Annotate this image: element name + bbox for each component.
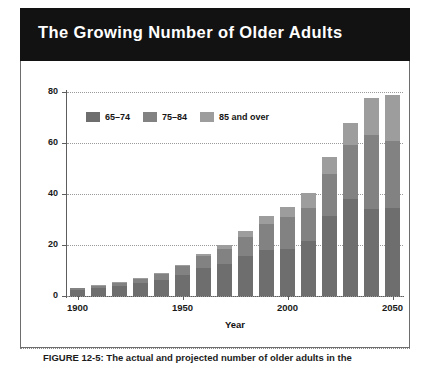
figure-title: The Growing Number of Older Adults [38,23,343,42]
y-tick-mark-40 [62,194,66,195]
bar-segment-2040-75-84 [364,135,378,209]
bar-2030 [343,123,357,296]
legend-swatch-1 [143,112,157,122]
chart-legend: 65–7475–8485 and over [86,112,269,122]
x-tick-mark-2000 [288,296,289,300]
x-tick-label-1900: 1900 [55,302,101,313]
bar-segment-2000-85-and-over [280,207,294,218]
bar-2040 [364,98,378,296]
bar-segment-1970-75-84 [217,249,231,265]
bar-segment-2030-75-84 [343,145,357,199]
bar-segment-2010-75-84 [301,208,315,241]
bar-2000 [280,207,294,296]
figure-caption: FIGURE 12-5: The actual and projected nu… [43,352,403,363]
bar-1940 [154,273,168,296]
bar-1970 [217,245,231,296]
bar-segment-2050-85-and-over [385,95,399,141]
y-tick-mark-20 [62,245,66,246]
bar-segment-1920-65-74 [112,286,126,296]
title-banner: The Growing Number of Older Adults [20,8,410,61]
bar-segment-1960-75-84 [196,256,210,268]
y-tick-label-60: 60 [24,137,58,147]
legend-label-2: 85 and over [219,112,269,122]
bar-segment-2050-75-84 [385,141,399,207]
caption-divider [20,348,410,349]
bar-segment-2040-85-and-over [364,98,378,134]
bar-segment-2000-75-84 [280,217,294,249]
y-tick-label-20: 20 [24,239,58,249]
bar-segment-1950-75-84 [175,266,189,274]
bar-segment-1990-85-and-over [259,216,273,224]
gridline-0 [67,296,403,297]
bar-2050 [385,95,399,296]
bar-segment-2020-65-74 [322,216,336,296]
bar-segment-1950-65-74 [175,275,189,296]
bar-1990 [259,216,273,296]
figure-container: The Growing Number of Older Adults 02040… [0,0,427,365]
legend-label-0: 65–74 [105,112,130,122]
bar-segment-2010-85-and-over [301,193,315,208]
bar-segment-2030-65-74 [343,199,357,296]
x-tick-mark-1900 [78,296,79,300]
legend-label-1: 75–84 [162,112,187,122]
legend-item-1: 75–84 [143,112,187,122]
bar-2020 [322,157,336,296]
legend-swatch-2 [200,112,214,122]
x-axis-title: Year [67,319,403,330]
bar-segment-1980-65-74 [238,256,252,296]
x-tick-label-2050: 2050 [370,302,416,313]
bar-segment-1990-65-74 [259,250,273,296]
bar-segment-1970-65-74 [217,264,231,296]
bar-segment-2000-65-74 [280,249,294,296]
y-tick-mark-60 [62,143,66,144]
plot-area [67,92,403,296]
bar-1960 [196,254,210,296]
bar-segment-1960-65-74 [196,268,210,296]
x-tick-mark-2050 [393,296,394,300]
legend-item-0: 65–74 [86,112,130,122]
y-tick-mark-80 [62,92,66,93]
bar-segment-2040-65-74 [364,209,378,296]
x-tick-label-2000: 2000 [265,302,311,313]
legend-item-2: 85 and over [200,112,269,122]
bar-1930 [133,278,147,296]
x-tick-label-1950: 1950 [160,302,206,313]
legend-swatch-0 [86,112,100,122]
bar-segment-1910-65-74 [91,288,105,296]
bar-1910 [91,285,105,296]
bar-segment-2010-65-74 [301,241,315,296]
bar-segment-1980-75-84 [238,237,252,257]
y-tick-mark-0 [62,296,66,297]
bar-segment-2050-65-74 [385,208,399,296]
bar-segment-1930-65-74 [133,283,147,296]
x-tick-mark-1950 [183,296,184,300]
gridline-80 [67,92,403,93]
bar-segment-2030-85-and-over [343,123,357,145]
bar-2010 [301,193,315,296]
bar-1950 [175,265,189,296]
y-tick-label-80: 80 [24,86,58,96]
bar-segment-2020-85-and-over [322,157,336,174]
bar-segment-1990-75-84 [259,224,273,250]
bar-1980 [238,231,252,296]
y-tick-label-0: 0 [24,290,58,300]
bar-1920 [112,282,126,296]
bar-segment-1940-65-74 [154,280,168,296]
bar-segment-2020-75-84 [322,174,336,216]
bar-1900 [70,288,84,296]
y-tick-label-40: 40 [24,188,58,198]
